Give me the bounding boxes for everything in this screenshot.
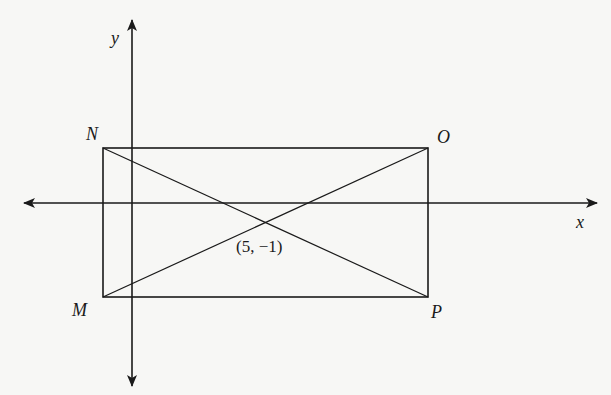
intersection-coordinate-label: (5, −1) <box>236 237 282 256</box>
vertex-label-n: N <box>85 124 99 144</box>
y-axis-label: y <box>109 28 119 48</box>
vertex-label-p: P <box>430 302 442 322</box>
coordinate-diagram: y x N O P M (5, −1) <box>0 0 611 395</box>
x-axis-label: x <box>575 212 584 232</box>
vertex-label-o: O <box>437 127 450 147</box>
vertex-label-m: M <box>71 300 88 320</box>
